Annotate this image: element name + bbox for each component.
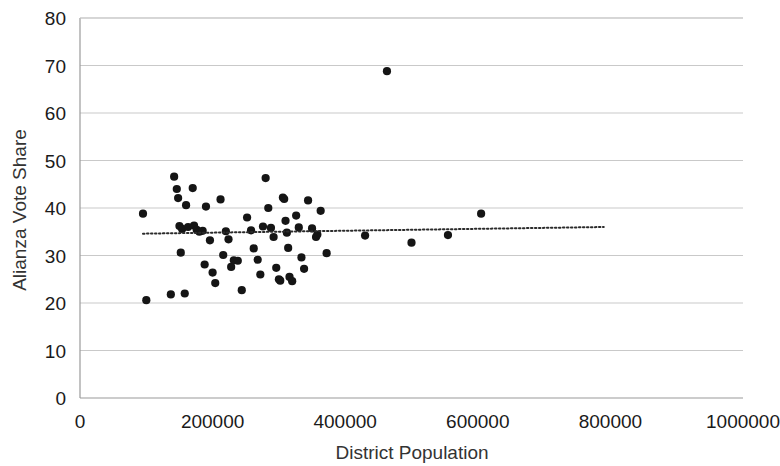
x-tick-label-200000: 200000 [181, 411, 244, 432]
chart-canvas: 01020304050607080 0200000400000600000800… [0, 0, 780, 466]
data-point [174, 194, 182, 202]
data-point [361, 231, 369, 239]
data-point [259, 222, 267, 230]
x-tick-label-600000: 600000 [446, 411, 509, 432]
data-point [256, 270, 264, 278]
data-points [139, 67, 485, 304]
data-point [206, 236, 214, 244]
data-point [407, 239, 415, 247]
scatter-chart: 01020304050607080 0200000400000600000800… [0, 0, 780, 466]
data-point [216, 195, 224, 203]
data-point [254, 256, 262, 264]
y-tick-label-70: 70 [45, 56, 66, 77]
trendline [143, 227, 604, 234]
data-point [300, 265, 308, 273]
data-point [477, 210, 485, 218]
data-point [181, 289, 189, 297]
y-tick-label-80: 80 [45, 8, 66, 29]
data-point [234, 257, 242, 265]
y-tick-label-0: 0 [55, 388, 66, 409]
data-point [250, 244, 258, 252]
x-tick-label-1000000: 1000000 [706, 411, 780, 432]
data-point [283, 229, 291, 237]
x-tick-label-0: 0 [75, 411, 86, 432]
x-tick-label-400000: 400000 [313, 411, 376, 432]
data-point [243, 213, 251, 221]
y-tick-label-50: 50 [45, 151, 66, 172]
y-tick-label-40: 40 [45, 198, 66, 219]
data-point [444, 231, 452, 239]
data-point [177, 249, 185, 257]
data-point [323, 249, 331, 257]
data-point [262, 174, 270, 182]
data-point [295, 223, 303, 231]
data-point [167, 290, 175, 298]
gridlines [80, 18, 743, 351]
data-point [280, 195, 288, 203]
data-point [270, 233, 278, 241]
data-point [304, 196, 312, 204]
data-point [284, 244, 292, 252]
y-tick-label-60: 60 [45, 103, 66, 124]
y-tick-label-20: 20 [45, 293, 66, 314]
data-point [189, 184, 197, 192]
data-point [139, 210, 147, 218]
y-axis-tick-labels: 01020304050607080 [45, 8, 66, 409]
data-point [297, 253, 305, 261]
data-point [142, 296, 150, 304]
data-point [383, 67, 391, 75]
data-point [276, 277, 284, 285]
y-tick-label-10: 10 [45, 341, 66, 362]
data-point [170, 173, 178, 181]
data-point [272, 264, 280, 272]
data-point [292, 212, 300, 220]
x-axis-tick-labels: 02000004000006000008000001000000 [75, 411, 780, 432]
data-point [247, 226, 255, 234]
data-point [202, 202, 210, 210]
data-point [317, 207, 325, 215]
data-point [211, 279, 219, 287]
data-point [222, 227, 230, 235]
x-tick-label-800000: 800000 [579, 411, 642, 432]
data-point [288, 277, 296, 285]
data-point [173, 185, 181, 193]
data-point [201, 260, 209, 268]
data-point [209, 269, 217, 277]
data-point [264, 204, 272, 212]
x-axis-title: District Population [335, 442, 488, 463]
data-point [182, 201, 190, 209]
y-tick-label-30: 30 [45, 246, 66, 267]
trendline-path [143, 227, 604, 234]
y-axis-title: Alianza Vote Share [9, 129, 30, 291]
data-point [224, 235, 232, 243]
data-point [238, 286, 246, 294]
data-point [219, 251, 227, 259]
data-point [281, 217, 289, 225]
